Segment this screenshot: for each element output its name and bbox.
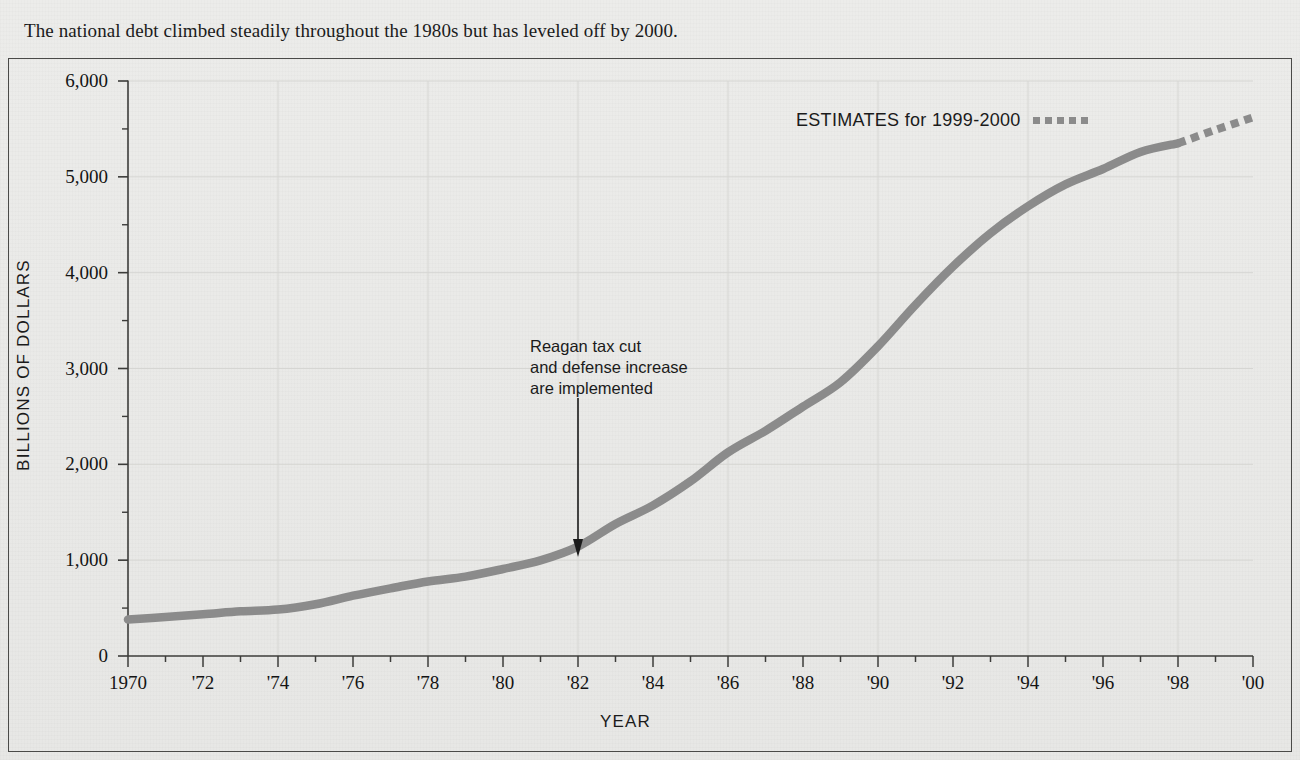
x-tick-label: '72 [192,672,214,694]
x-tick-label: '90 [867,672,889,694]
y-tick-label: 6,000 [28,70,108,92]
x-axis-label: YEAR [600,712,651,732]
x-tick-label: '84 [642,672,664,694]
x-tick-label: '00 [1242,672,1264,694]
reagan-annotation: Reagan tax cut and defense increase are … [530,336,688,399]
x-tick-label: '96 [1092,672,1114,694]
chart-plot-area: BILLIONS OF DOLLARS YEAR 01,0002,0003,00… [0,0,1300,760]
estimates-legend: ESTIMATES for 1999-2000 [796,110,1093,131]
x-tick-label: '82 [567,672,589,694]
estimates-legend-label: ESTIMATES for 1999-2000 [796,110,1021,130]
y-tick-label: 3,000 [28,358,108,380]
annotation-line-2: and defense increase [530,357,688,378]
x-tick-label: '78 [417,672,439,694]
annotation-line-1: Reagan tax cut [530,336,688,357]
y-tick-label: 4,000 [28,262,108,284]
x-tick-label: '92 [942,672,964,694]
x-tick-label: '86 [717,672,739,694]
y-tick-label: 5,000 [28,166,108,188]
y-tick-label: 2,000 [28,453,108,475]
x-tick-label: '74 [267,672,289,694]
x-tick-label: '98 [1167,672,1189,694]
x-tick-label: '94 [1017,672,1039,694]
x-tick-label: 1970 [109,672,147,694]
x-tick-label: '76 [342,672,364,694]
x-tick-label: '88 [792,672,814,694]
dotted-line-swatch-icon [1033,117,1093,124]
x-tick-label: '80 [492,672,514,694]
y-tick-label: 1,000 [28,549,108,571]
y-tick-label: 0 [28,645,108,667]
annotation-line-3: are implemented [530,378,688,399]
